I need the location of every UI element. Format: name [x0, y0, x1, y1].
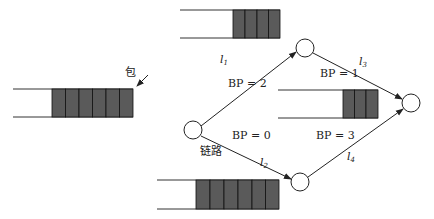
node-source: [184, 121, 202, 139]
bp-l1: BP = 2: [228, 77, 267, 90]
node-destination: [402, 94, 420, 112]
node-top: [296, 39, 314, 57]
bp-l3: BP = 1: [320, 67, 359, 80]
packet-annotation: 包: [125, 66, 148, 86]
l3-label: l3: [359, 55, 368, 69]
l1-label: l1: [220, 53, 228, 67]
network-diagram: 包: [0, 0, 434, 219]
node-bottom: [291, 173, 309, 191]
packets: [52, 89, 133, 117]
bp-labels: BP = 2 BP = 0 BP = 1 BP = 3: [228, 67, 359, 142]
middle-queue: [278, 90, 378, 118]
source-queue: [13, 89, 133, 117]
bp-l4: BP = 3: [316, 129, 355, 142]
bottom-queue: [157, 180, 279, 209]
link-annotation: 链路: [200, 144, 222, 158]
l4-label: l4: [347, 150, 355, 164]
link-l4: [308, 109, 403, 177]
top-queue: [180, 10, 280, 38]
packet-label: 包: [125, 66, 136, 79]
l2-label: l2: [260, 156, 269, 170]
bp-l2: BP = 0: [232, 129, 271, 142]
